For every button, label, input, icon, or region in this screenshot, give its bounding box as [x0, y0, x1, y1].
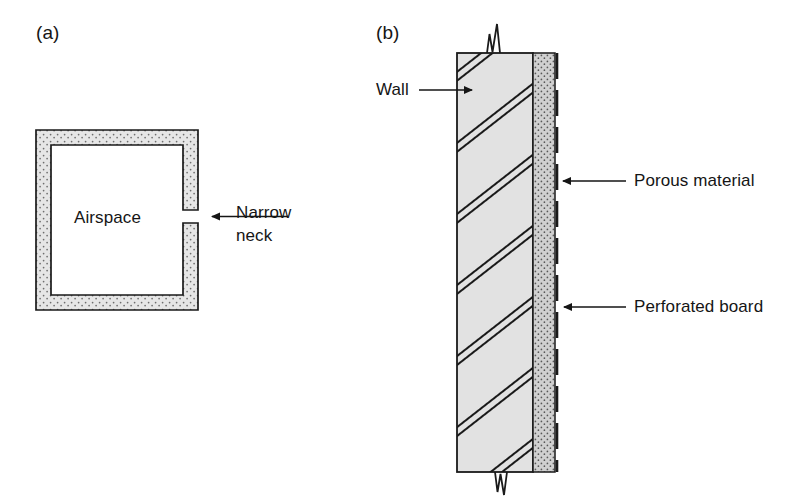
bottom-break-symbol	[495, 472, 507, 495]
narrow-neck-label-line1: Narrow	[236, 202, 291, 223]
figure-root: (a) (b) Airspace Narrow neck Wall Porous…	[0, 0, 789, 496]
panel-a-tag: (a)	[36, 22, 60, 43]
wall-label: Wall	[376, 79, 409, 100]
panel-b-tag: (b)	[376, 22, 400, 43]
narrow-neck-label-line2: neck	[236, 225, 272, 246]
porous-material-label: Porous material	[634, 170, 755, 191]
panel-b-absorber	[419, 24, 626, 495]
top-break-symbol	[487, 24, 500, 53]
diagram-canvas	[0, 0, 789, 496]
perforated-board-label: Perforated board	[634, 296, 763, 317]
wall-hatch-region	[457, 53, 533, 472]
porous-fill-region	[533, 53, 555, 472]
airspace-label: Airspace	[74, 207, 141, 228]
